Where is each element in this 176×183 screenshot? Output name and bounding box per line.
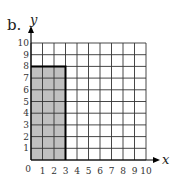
x-tick-label: 0 — [25, 164, 31, 174]
y-axis-arrow-icon — [28, 26, 34, 33]
x-tick-label: 9 — [132, 166, 138, 176]
x-tick-label: 7 — [109, 166, 115, 176]
x-axis-arrow-icon — [153, 157, 160, 163]
y-axis-label: y — [29, 12, 38, 27]
part-label: b. — [7, 16, 21, 34]
y-tick-label: 9 — [23, 50, 29, 60]
x-tick-label: 2 — [51, 166, 57, 176]
x-tick-label: 5 — [86, 166, 92, 176]
x-tick-label: 4 — [74, 166, 80, 176]
x-tick-label: 10 — [140, 166, 152, 176]
y-tick-label: 4 — [23, 108, 29, 118]
y-tick-label: 6 — [23, 85, 29, 95]
y-tick-label: 10 — [18, 38, 30, 48]
x-tick-label: 8 — [120, 166, 126, 176]
x-tick-label: 3 — [63, 166, 69, 176]
x-tick-label: 1 — [40, 166, 46, 176]
y-tick-label: 3 — [23, 120, 29, 130]
chart: b. 01234567891012345678910 y x — [0, 0, 176, 183]
y-tick-label: 2 — [23, 132, 29, 142]
y-tick-label: 7 — [23, 73, 29, 83]
y-tick-label: 1 — [23, 143, 29, 153]
y-tick-label: 5 — [23, 97, 29, 107]
y-tick-label: 8 — [23, 61, 29, 71]
x-axis-label: x — [162, 152, 170, 167]
x-tick-label: 6 — [97, 166, 103, 176]
